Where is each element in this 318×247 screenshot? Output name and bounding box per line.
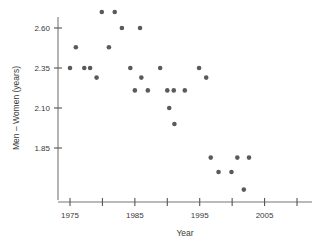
- y-axis-tick-label: 2.35: [34, 64, 50, 73]
- y-axis-tick-label: 2.10: [34, 104, 50, 113]
- data-point: [139, 75, 144, 80]
- data-point-group: [68, 10, 252, 192]
- data-point: [204, 75, 209, 80]
- x-axis-title: Year: [176, 228, 193, 238]
- data-point: [167, 106, 172, 111]
- x-axis-tick-label: 2005: [256, 211, 274, 220]
- data-point: [229, 170, 234, 175]
- data-point: [68, 66, 73, 71]
- x-axis-tick-group: 1975198519952005: [61, 198, 297, 220]
- data-point: [82, 66, 87, 71]
- data-point: [247, 155, 252, 160]
- y-axis-tick-label: 2.60: [34, 24, 50, 33]
- y-axis-title: Men – Women (years): [11, 66, 21, 150]
- x-axis-tick-label: 1975: [61, 211, 79, 220]
- data-point: [120, 26, 125, 31]
- data-point: [242, 187, 247, 192]
- data-point: [208, 155, 213, 160]
- data-point: [74, 45, 79, 50]
- data-point: [112, 10, 117, 15]
- data-point: [94, 75, 99, 80]
- data-point: [146, 88, 151, 93]
- data-point: [88, 66, 93, 71]
- data-point: [165, 88, 170, 93]
- data-point: [138, 26, 143, 31]
- data-point: [235, 155, 240, 160]
- scatter-plot-figure: 1.852.102.352.60 1975198519952005 Year M…: [0, 0, 318, 247]
- data-point: [107, 45, 112, 50]
- data-point: [158, 66, 163, 71]
- data-point: [133, 88, 138, 93]
- data-point: [171, 88, 176, 93]
- data-point: [128, 66, 133, 71]
- data-point: [183, 88, 188, 93]
- data-point: [216, 170, 221, 175]
- data-point: [99, 10, 104, 15]
- data-point: [172, 122, 177, 127]
- scatter-plot-canvas: 1.852.102.352.60 1975198519952005 Year M…: [0, 0, 318, 247]
- x-axis-tick-label: 1995: [191, 211, 209, 220]
- y-axis-tick-label: 1.85: [34, 144, 50, 153]
- x-axis-tick-label: 1985: [126, 211, 144, 220]
- data-point: [197, 66, 202, 71]
